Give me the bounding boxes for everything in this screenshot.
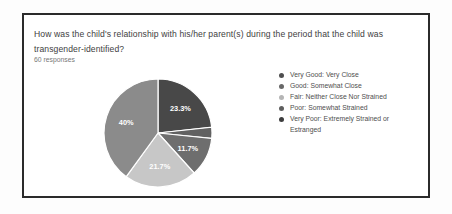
legend-label: Good: Somewhat Close (290, 81, 362, 92)
pie-chart-container: 23.3%11.7%21.7%40% (98, 73, 218, 193)
page: How was the child's relationship with hi… (0, 0, 452, 214)
question-title-line-2: transgender-identified? (34, 42, 383, 57)
legend-item-3: Poor: Somewhat Strained (279, 103, 411, 114)
legend-color-dot-icon (279, 84, 284, 89)
question-title: How was the child's relationship with hi… (34, 27, 383, 57)
pie-slice-pct-label: 23.3% (170, 104, 191, 113)
pie-chart: 23.3%11.7%21.7%40% (98, 73, 218, 193)
legend-color-dot-icon (279, 73, 284, 78)
legend-item-0: Very Good: Very Close (279, 70, 411, 81)
legend-color-dot-icon (279, 106, 284, 111)
legend-label: Fair: Neither Close Nor Strained (290, 92, 387, 103)
responses-count: 60 responses (34, 56, 75, 63)
question-title-line-1: How was the child's relationship with hi… (34, 27, 383, 42)
legend-item-1: Good: Somewhat Close (279, 81, 411, 92)
chart-legend: Very Good: Very CloseGood: Somewhat Clos… (279, 70, 411, 135)
legend-color-dot-icon (279, 117, 284, 122)
pie-slice-pct-label: 40% (119, 118, 134, 127)
legend-label: Very Poor: Extremely Strained or Estrang… (290, 114, 408, 135)
legend-label: Poor: Somewhat Strained (290, 103, 367, 114)
legend-color-dot-icon (279, 95, 284, 100)
pie-slice-pct-label: 11.7% (178, 144, 199, 153)
legend-label: Very Good: Very Close (290, 70, 359, 81)
form-response-card: How was the child's relationship with hi… (22, 13, 430, 198)
pie-slice-pct-label: 21.7% (149, 162, 170, 171)
legend-item-2: Fair: Neither Close Nor Strained (279, 92, 411, 103)
legend-item-4: Very Poor: Extremely Strained or Estrang… (279, 114, 411, 135)
